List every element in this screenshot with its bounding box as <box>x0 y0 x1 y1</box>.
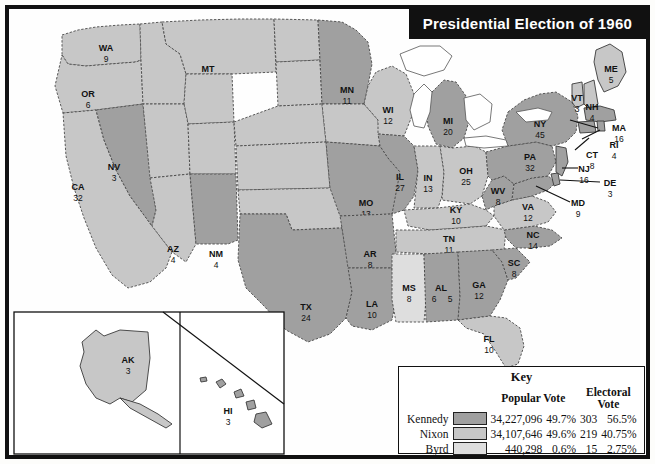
state-value-VT: 3 <box>575 104 580 114</box>
state-value-MS: 8 <box>407 294 412 304</box>
state-value-LA: 10 <box>367 310 377 320</box>
state-WY[interactable] <box>184 74 234 124</box>
state-value-KY: 10 <box>451 216 461 226</box>
state-value-GA: 12 <box>474 291 484 301</box>
state-label-CT: CT <box>586 150 598 160</box>
key-row-byrd: Byrd 440,298 0.6% 15 2.75% <box>405 441 639 456</box>
key-swatch-nixon-cell <box>451 426 489 441</box>
state-label-OR: OR <box>81 89 95 99</box>
state-label-AZ: AZ <box>167 244 179 254</box>
lake-superior <box>400 46 452 76</box>
state-value-CA: 32 <box>73 193 83 203</box>
state-SD[interactable] <box>276 60 322 106</box>
state-label-HI: HI <box>224 406 233 416</box>
state-CO[interactable] <box>188 122 236 174</box>
state-label-MN: MN <box>340 85 354 95</box>
state-label-ME: ME <box>604 64 618 74</box>
state-value-PA: 32 <box>525 163 535 173</box>
state-MI[interactable] <box>426 80 470 148</box>
state-label-LA: LA <box>366 299 378 309</box>
state-value-HI: 3 <box>226 417 231 427</box>
state-value-OH: 25 <box>461 177 471 187</box>
state-value-MD: 9 <box>576 209 581 219</box>
state-KS[interactable] <box>236 142 330 190</box>
key-swatch-byrd <box>453 442 487 455</box>
state-label-AL: AL <box>435 283 447 293</box>
key-candidate-byrd: Byrd <box>405 441 451 456</box>
state-value-NH: 4 <box>590 113 595 123</box>
key-popular-pct-kennedy: 49.7% <box>544 411 578 426</box>
lake-erie <box>464 136 508 148</box>
key-table: Popular Vote Electoral Vote Kennedy 34,2… <box>405 385 639 456</box>
key-electoral-nixon: 219 <box>578 426 599 441</box>
state-value-NJ: 16 <box>579 175 589 185</box>
state-label-GA: GA <box>472 280 486 290</box>
state-label-NJ: NJ <box>578 164 590 174</box>
state-label-AR: AR <box>364 249 377 259</box>
key-candidate-nixon: Nixon <box>405 426 451 441</box>
state-value-OR: 6 <box>86 100 91 110</box>
state-value-AL-split: 5 <box>448 294 453 304</box>
state-ND[interactable] <box>274 19 320 62</box>
key-popular-kennedy: 34,227,096 <box>489 411 545 426</box>
state-NE[interactable] <box>234 104 326 146</box>
key-electoral-kennedy: 303 <box>578 411 599 426</box>
state-value-NC: 14 <box>528 241 538 251</box>
key-popular-pct-byrd: 0.6% <box>544 441 578 456</box>
state-label-DE: DE <box>604 178 617 188</box>
key-candidate-kennedy: Kennedy <box>405 411 451 426</box>
key-swatch-kennedy-cell <box>451 411 489 426</box>
state-value-NM: 4 <box>214 260 219 270</box>
key-header-electoral: Electoral Vote <box>578 385 639 411</box>
state-label-MA: MA <box>612 123 626 133</box>
state-value-TX: 24 <box>301 313 311 323</box>
key-swatch-byrd-cell <box>451 441 489 456</box>
state-RI[interactable] <box>597 121 605 131</box>
state-label-NV: NV <box>108 162 121 172</box>
state-label-NM: NM <box>209 249 223 259</box>
state-label-AK: AK <box>122 355 135 365</box>
state-label-VA: VA <box>522 202 534 212</box>
state-NJ[interactable] <box>556 146 568 176</box>
state-label-SC: SC <box>508 258 521 268</box>
state-value-AL: 6 <box>432 294 437 304</box>
state-label-RI: RI <box>610 140 619 150</box>
page-title: Presidential Election of 1960 <box>409 9 646 39</box>
state-value-WA: 9 <box>104 54 109 64</box>
state-value-WV: 8 <box>496 197 501 207</box>
state-label-IL: IL <box>396 172 405 182</box>
state-value-VA: 12 <box>523 213 533 223</box>
lake-huron <box>464 94 492 130</box>
state-label-CA: CA <box>72 182 85 192</box>
state-label-TX: TX <box>300 302 312 312</box>
state-value-NY: 45 <box>535 130 545 140</box>
state-value-CT: 8 <box>590 161 595 171</box>
state-label-MO: MO <box>359 198 374 208</box>
state-label-MT: MT <box>202 64 215 74</box>
state-label-IN: IN <box>424 173 433 183</box>
state-value-IL: 27 <box>395 183 405 193</box>
map-key: Key Popular Vote Electoral Vote Kennedy … <box>398 366 645 454</box>
state-value-AZ: 4 <box>171 255 176 265</box>
state-label-WI: WI <box>383 105 394 115</box>
key-electoral-pct-byrd: 2.75% <box>599 441 638 456</box>
state-label-FL: FL <box>484 334 495 344</box>
state-value-AK: 3 <box>126 366 131 376</box>
state-UT[interactable] <box>143 104 190 178</box>
key-popular-byrd: 440,298 <box>489 441 545 456</box>
key-heading: Key <box>405 370 638 385</box>
state-label-OH: OH <box>459 166 473 176</box>
state-value-WI: 12 <box>383 116 393 126</box>
key-electoral-byrd: 15 <box>578 441 599 456</box>
key-row-kennedy: Kennedy 34,227,096 49.7% 303 56.5% <box>405 411 639 426</box>
state-label-KY: KY <box>450 205 463 215</box>
key-header-popular: Popular Vote <box>489 385 578 411</box>
state-NM[interactable] <box>190 174 238 244</box>
state-value-IN: 13 <box>423 184 433 194</box>
state-label-NH: NH <box>586 102 599 112</box>
key-electoral-pct-nixon: 40.75% <box>599 426 638 441</box>
key-swatch-kennedy <box>453 412 487 425</box>
state-label-MI: MI <box>443 116 453 126</box>
key-header-swatch <box>451 385 489 411</box>
key-popular-pct-nixon: 49.6% <box>544 426 578 441</box>
